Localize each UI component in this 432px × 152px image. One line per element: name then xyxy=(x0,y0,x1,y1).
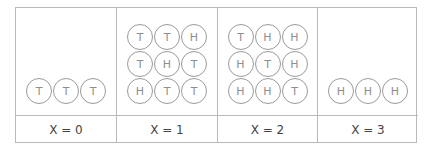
coin: T xyxy=(181,51,207,77)
coins-cell-x3: H H H xyxy=(318,8,418,116)
coin: T xyxy=(282,78,308,104)
coin-group: T T H T H T H T T xyxy=(125,24,209,104)
coin: T xyxy=(255,51,281,77)
label-cell-x3: X = 3 xyxy=(318,116,418,143)
coins-cell-x2: T H H H T H H H T xyxy=(218,8,318,116)
coins-cell-x1: T T H T H T H T T xyxy=(117,8,218,116)
coin: H xyxy=(154,51,180,77)
label-cell-x2: X = 2 xyxy=(218,116,318,143)
label-cell-x0: X = 0 xyxy=(16,116,117,143)
coin: H xyxy=(255,78,281,104)
coin: T xyxy=(127,51,153,77)
coins-cell-x0: T T T xyxy=(16,8,117,116)
coin: H xyxy=(228,51,254,77)
outcome-table: T T T T T H T H T H T T T H H H T H H H … xyxy=(15,7,417,143)
coin: T xyxy=(181,78,207,104)
coin: T xyxy=(228,24,254,50)
coin: H xyxy=(228,78,254,104)
label-cell-x1: X = 1 xyxy=(117,116,218,143)
coin: H xyxy=(181,24,207,50)
coin: T xyxy=(80,78,106,104)
x-value-label: X = 2 xyxy=(218,116,317,143)
coin: H xyxy=(355,78,381,104)
coin: T xyxy=(53,78,79,104)
coin-group: H H H xyxy=(326,78,410,104)
coin: T xyxy=(127,24,153,50)
x-value-label: X = 3 xyxy=(318,116,418,143)
coin-group: T T T xyxy=(24,78,108,104)
coin: T xyxy=(26,78,52,104)
x-value-label: X = 1 xyxy=(117,116,217,143)
coin: H xyxy=(127,78,153,104)
coin-group: T H H H T H H H T xyxy=(226,24,310,104)
coin: H xyxy=(328,78,354,104)
coin: H xyxy=(282,24,308,50)
coin: H xyxy=(282,51,308,77)
coin: H xyxy=(255,24,281,50)
coin: T xyxy=(154,24,180,50)
x-value-label: X = 0 xyxy=(16,116,116,143)
coin: H xyxy=(382,78,408,104)
coin: T xyxy=(154,78,180,104)
